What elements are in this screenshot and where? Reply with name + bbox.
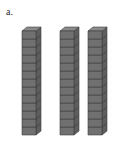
cube-tower xyxy=(59,26,82,138)
cube-front-face xyxy=(22,87,36,95)
cube-front-face xyxy=(60,71,74,79)
cube-front-face xyxy=(88,71,102,79)
cube-front-face xyxy=(88,47,102,55)
cube-front-face xyxy=(88,103,102,111)
cube-front-face xyxy=(88,55,102,63)
cube-front-face xyxy=(88,63,102,71)
cube-front-face xyxy=(60,103,74,111)
cube-front-face xyxy=(22,103,36,111)
cube-tower-graphic xyxy=(21,26,44,138)
cube-tower-graphic xyxy=(59,26,82,138)
cube-front-face xyxy=(60,39,74,47)
cube-front-face xyxy=(88,111,102,119)
cube-front-face xyxy=(22,31,36,39)
worksheet-figure-panel: a. xyxy=(0,0,123,150)
cube-front-face xyxy=(88,79,102,87)
cube-front-face xyxy=(60,31,74,39)
cube-front-face xyxy=(22,119,36,127)
cube-front-face xyxy=(88,39,102,47)
cube-front-face xyxy=(88,31,102,39)
cube-front-face xyxy=(88,87,102,95)
cube-tower xyxy=(87,26,110,138)
cube-front-face xyxy=(60,95,74,103)
cube-front-face xyxy=(22,127,36,135)
cube-front-face xyxy=(88,119,102,127)
cube-front-face xyxy=(22,55,36,63)
cube-front-face xyxy=(22,71,36,79)
cube-front-face xyxy=(60,63,74,71)
cube-front-face xyxy=(60,87,74,95)
cube-front-face xyxy=(60,111,74,119)
cube-towers-figure xyxy=(0,0,123,150)
cube-front-face xyxy=(22,47,36,55)
cube-front-face xyxy=(22,79,36,87)
cube-front-face xyxy=(22,63,36,71)
cube-front-face xyxy=(60,127,74,135)
cube-front-face xyxy=(22,95,36,103)
cube-front-face xyxy=(88,95,102,103)
cube-front-face xyxy=(60,55,74,63)
cube-front-face xyxy=(60,119,74,127)
cube-front-face xyxy=(60,47,74,55)
cube-front-face xyxy=(22,39,36,47)
cube-tower-graphic xyxy=(87,26,110,138)
cube-tower xyxy=(21,26,44,138)
cube-front-face xyxy=(22,111,36,119)
cube-front-face xyxy=(60,79,74,87)
cube-front-face xyxy=(88,127,102,135)
